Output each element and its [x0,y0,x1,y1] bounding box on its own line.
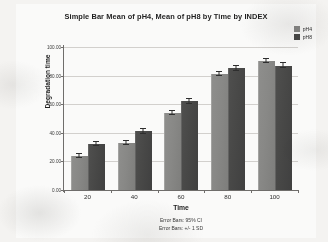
footnote: Error Bars: 95% CI [64,216,298,224]
bar-rect [211,74,228,190]
bar-rect [164,113,181,190]
error-bar-cap [140,128,146,129]
x-tick-label: 100 [269,193,279,200]
bar-ph4-20 [71,47,87,190]
bar-ph8-80 [228,47,244,190]
bar-ph4-80 [211,47,227,190]
x-tick-label: 60 [178,193,185,200]
bar-group [64,47,111,190]
error-bar-cap [140,133,146,134]
x-tick-label: 20 [84,193,91,200]
chart-footnotes: Error Bars: 95% CIError Bars: +/- 1 SD [64,216,298,232]
x-tick-label: 80 [224,193,231,200]
legend-swatch-icon [294,26,300,32]
y-tick-label: 60.00 [50,102,62,107]
y-tick-label: 40.00 [50,130,62,135]
bar-rect [118,143,135,190]
legend-swatch-icon [294,34,300,40]
error-bar-cap [280,62,286,63]
error-bar-cap [216,71,222,72]
bar-group [111,47,158,190]
bar-ph8-40 [135,47,151,190]
error-bar-cap [263,58,269,59]
chart-title: Simple Bar Mean of pH4, Mean of pH8 by T… [16,12,316,21]
error-bar-cap [216,75,222,76]
legend-item-label: pH8 [303,34,312,40]
legend-item-ph4: pH4 [294,26,312,32]
bar-ph4-100 [258,47,274,190]
error-bar-cap [93,145,99,146]
bar-rect [88,144,105,190]
chart-legend: pH4pH8 [294,26,312,40]
legend-item-label: pH4 [303,26,312,32]
error-bar-cap [93,141,99,142]
error-bar-cap [233,70,239,71]
x-tick-label: 40 [131,193,138,200]
bar-ph4-60 [164,47,180,190]
bar-group [204,47,251,190]
bar-group [158,47,205,190]
bar-rect [181,101,198,190]
x-axis-title: Time [64,204,298,211]
y-tick-label: 0.00 [52,188,61,193]
bar-ph8-100 [275,47,291,190]
error-bar-cap [123,140,129,141]
y-tick-label: 20.00 [50,159,62,164]
error-bar-cap [186,103,192,104]
plot-area [64,47,298,190]
chart-figure: Simple Bar Mean of pH4, Mean of pH8 by T… [16,4,316,238]
bar-ph8-20 [88,47,104,190]
y-tick-label: 80.00 [50,73,62,78]
error-bar-cap [263,62,269,63]
error-bar-cap [123,144,129,145]
error-bar-cap [186,98,192,99]
bar-rect [135,131,152,190]
bar-rect [228,68,245,190]
error-bar-cap [169,114,175,115]
footnote: Error Bars: +/- 1 SD [64,224,298,232]
bar-group [251,47,298,190]
x-tick-mark [298,190,299,193]
bar-rect [258,61,275,190]
bar-rect [275,66,292,190]
error-bar-cap [169,110,175,111]
chart-screenshot: Simple Bar Mean of pH4, Mean of pH8 by T… [0,0,328,242]
legend-item-ph8: pH8 [294,34,312,40]
bar-rect [71,156,88,190]
x-axis-tick-labels: 20406080100 [64,193,298,203]
error-bar-cap [76,153,82,154]
error-bar-cap [280,67,286,68]
bar-ph4-40 [118,47,134,190]
y-axis-title: Degradation time [44,37,51,127]
error-bar-cap [233,65,239,66]
bar-ph8-60 [181,47,197,190]
error-bar-cap [76,157,82,158]
